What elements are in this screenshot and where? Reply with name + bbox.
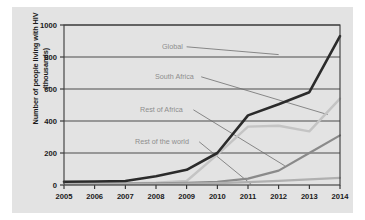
y-tick-label: 400 xyxy=(44,117,57,126)
x-axis-ticks: 2005200620072008200920102011201220132014 xyxy=(56,185,350,201)
x-tick-label: 2013 xyxy=(301,192,318,201)
y-tick-label: 1000 xyxy=(40,21,57,30)
x-tick-label: 2005 xyxy=(56,192,74,201)
series-annotation-label: South Africa xyxy=(155,72,194,81)
chart-figure: Number of people living with HIV (thousa… xyxy=(12,7,353,213)
series-line xyxy=(64,99,340,184)
x-tick-label: 2008 xyxy=(148,192,165,201)
y-tick-label: 800 xyxy=(44,53,57,62)
y-tick-label: 600 xyxy=(44,85,57,94)
x-tick-label: 2012 xyxy=(270,192,287,201)
series-annotation-label: Global xyxy=(162,42,183,51)
chart-canvas: 02004006008001000 2005200620072008200920… xyxy=(12,7,353,213)
x-tick-label: 2007 xyxy=(117,192,134,201)
x-tick-label: 2011 xyxy=(240,192,257,201)
gridlines xyxy=(64,25,340,153)
series-line xyxy=(64,135,340,184)
y-axis-ticks: 02004006008001000 xyxy=(40,21,64,190)
series-annotations: GlobalSouth AfricaRest of AfricaRest of … xyxy=(135,42,194,146)
x-tick-label: 2014 xyxy=(332,192,350,201)
annotation-leader xyxy=(187,47,279,55)
series-lines xyxy=(64,36,340,184)
series-annotation-label: Rest of the world xyxy=(135,137,189,146)
series-annotation-label: Rest of Africa xyxy=(140,105,183,114)
y-tick-label: 0 xyxy=(53,181,57,190)
y-tick-label: 200 xyxy=(44,149,57,158)
x-tick-label: 2010 xyxy=(209,192,226,201)
x-tick-label: 2006 xyxy=(86,192,103,201)
x-tick-label: 2009 xyxy=(178,192,195,201)
